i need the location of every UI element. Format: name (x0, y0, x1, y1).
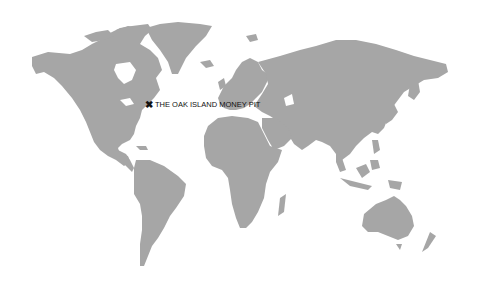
marker-label: THE OAK ISLAND MONEY PIT (155, 100, 260, 110)
continent-south-america (134, 160, 186, 266)
world-map (0, 0, 481, 284)
continent-north-america (32, 24, 162, 166)
continent-australia (362, 196, 436, 252)
oak-island-marker[interactable]: ✖ THE OAK ISLAND MONEY PIT (145, 100, 260, 110)
x-marker-icon: ✖ (145, 100, 153, 110)
